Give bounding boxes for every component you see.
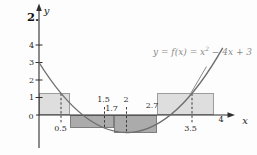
x-tick-label-1.7: 1.7 [105, 105, 118, 113]
y-tick-label-2: 2 [29, 77, 34, 85]
problem-number: 2. [27, 10, 39, 24]
y-tick-label-0: 0 [28, 113, 33, 121]
x-tick-label-2.7: 2.7 [146, 102, 159, 110]
x-tick-label-3.5: 3.5 [184, 125, 197, 133]
x-tick-label-1.5: 1.5 [97, 96, 110, 104]
figure-labels: 2. y x 4 3 2 1 0 0.5 1.5 1.7 2 2.7 3.5 4… [0, 0, 257, 155]
riemann-sum-figure: 2. y x 4 3 2 1 0 0.5 1.5 1.7 2 2.7 3.5 4… [0, 0, 257, 155]
x-tick-label-0.5: 0.5 [54, 125, 67, 133]
x-tick-label-2: 2 [123, 96, 128, 104]
x-axis-label: x [242, 116, 248, 126]
equation-suffix: − 4x + 3 [209, 47, 252, 57]
equation-prefix: y = f(x) = x [153, 47, 205, 57]
y-tick-label-4: 4 [29, 42, 34, 50]
y-tick-label-3: 3 [29, 59, 34, 67]
y-axis-label: y [44, 6, 50, 16]
function-equation: y = f(x) = x2 − 4x + 3 [153, 48, 252, 57]
y-tick-label-1: 1 [29, 94, 34, 102]
x-tick-label-4: 4 [218, 116, 223, 124]
